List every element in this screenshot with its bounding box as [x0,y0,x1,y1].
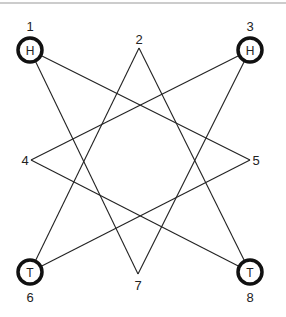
node-3: H 3 [238,19,262,62]
node-2-label: 2 [135,32,142,47]
edges [30,48,250,274]
node-6-label: 6 [26,290,33,305]
node-6-letter: T [26,266,34,280]
node-3-letter: H [246,44,255,58]
node-6: T 6 [18,260,42,305]
node-8: T 8 [238,260,262,305]
node-3-label: 3 [246,19,253,34]
node-4-label: 4 [21,153,28,168]
edge-3-7 [138,50,250,274]
node-7-label: 7 [134,278,141,293]
edge-2-6 [30,48,139,272]
node-8-letter: T [246,266,254,280]
node-1: H 1 [18,19,42,62]
node-1-letter: H [26,44,35,58]
graph-diagram: H 1 2 H 3 4 5 T 6 7 T 8 [0,0,286,317]
node-5-label: 5 [252,153,259,168]
node-8-label: 8 [246,290,253,305]
node-1-label: 1 [26,19,33,34]
